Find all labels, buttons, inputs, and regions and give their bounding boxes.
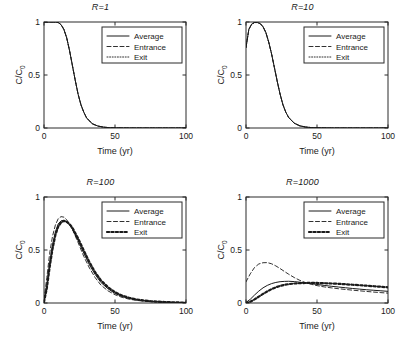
legend-label-entrance: Entrance — [336, 43, 369, 52]
y-tick-label: 0.5 — [230, 70, 242, 80]
x-axis-label: Time (yr) — [299, 321, 335, 331]
legend-label-exit: Exit — [336, 228, 350, 237]
y-tick-label: 1 — [237, 192, 242, 202]
legend-label-average: Average — [336, 207, 366, 216]
y-axis-label: C/C0 — [14, 240, 26, 260]
x-tick-label: 0 — [244, 131, 249, 141]
y-tick-label: 0 — [35, 298, 40, 308]
legend-label-entrance: Entrance — [134, 43, 167, 52]
y-tick-label: 0.5 — [28, 245, 40, 255]
legend-label-entrance: Entrance — [336, 218, 369, 227]
x-tick-label: 0 — [42, 306, 47, 316]
legend-label-exit: Exit — [134, 53, 148, 62]
x-tick-label: 100 — [179, 306, 193, 316]
curve-entrance — [246, 263, 388, 294]
x-tick-label: 100 — [381, 131, 395, 141]
panel-title: R=10 — [202, 2, 403, 12]
x-tick-label: 50 — [110, 131, 120, 141]
legend-label-average: Average — [336, 32, 366, 41]
x-axis-label: Time (yr) — [299, 146, 335, 156]
y-tick-label: 1 — [35, 192, 40, 202]
y-tick-label: 0 — [237, 123, 242, 133]
svg-text:C/C0: C/C0 — [216, 240, 228, 260]
legend-label-entrance: Entrance — [134, 218, 167, 227]
x-tick-label: 0 — [244, 306, 249, 316]
plot-area: 05010000.51C/C0Time (yr)AverageEntranceE… — [0, 0, 201, 175]
plot-area: 05010000.51C/C0Time (yr)AverageEntranceE… — [0, 175, 201, 350]
legend-label-exit: Exit — [336, 53, 350, 62]
y-tick-label: 1 — [35, 17, 40, 27]
y-tick-label: 0 — [237, 298, 242, 308]
legend-label-average: Average — [134, 32, 164, 41]
y-tick-label: 1 — [237, 17, 242, 27]
y-axis-label: C/C0 — [216, 240, 228, 260]
plot-area: 05010000.51C/C0Time (yr)AverageEntranceE… — [202, 0, 403, 175]
legend-label-average: Average — [134, 207, 164, 216]
plot-panel-r10: R=1005010000.51C/C0Time (yr)AverageEntra… — [202, 0, 403, 175]
curves-group — [246, 263, 388, 303]
y-axis-label: C/C0 — [216, 65, 228, 85]
x-tick-label: 50 — [312, 131, 322, 141]
panel-title: R=1000 — [202, 177, 403, 187]
panel-title: R=100 — [0, 177, 201, 187]
x-tick-label: 0 — [42, 131, 47, 141]
plot-panel-r1000: R=100005010000.51C/C0Time (yr)AverageEnt… — [202, 175, 403, 350]
x-tick-label: 50 — [110, 306, 120, 316]
y-tick-label: 0 — [35, 123, 40, 133]
plot-panel-r1: R=105010000.51C/C0Time (yr)AverageEntran… — [0, 0, 201, 175]
y-tick-label: 0.5 — [28, 70, 40, 80]
x-tick-label: 50 — [312, 306, 322, 316]
y-tick-label: 0.5 — [230, 245, 242, 255]
svg-text:C/C0: C/C0 — [216, 65, 228, 85]
x-axis-label: Time (yr) — [97, 321, 133, 331]
x-tick-label: 100 — [179, 131, 193, 141]
x-tick-label: 100 — [381, 306, 395, 316]
svg-text:C/C0: C/C0 — [14, 240, 26, 260]
legend-label-exit: Exit — [134, 228, 148, 237]
figure-container: R=105010000.51C/C0Time (yr)AverageEntran… — [0, 0, 403, 350]
plot-area: 05010000.51C/C0Time (yr)AverageEntranceE… — [202, 175, 403, 350]
panel-title: R=1 — [0, 2, 201, 12]
plot-panel-r100: R=10005010000.51C/C0Time (yr)AverageEntr… — [0, 175, 201, 350]
svg-text:C/C0: C/C0 — [14, 65, 26, 85]
y-axis-label: C/C0 — [14, 65, 26, 85]
x-axis-label: Time (yr) — [97, 146, 133, 156]
